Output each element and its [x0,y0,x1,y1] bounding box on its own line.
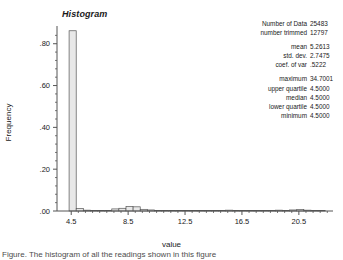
stat-value: 4.5000 [310,84,340,93]
stat-row: mean5.2613 [222,42,340,51]
stat-label: maximum [279,74,310,83]
stat-value: 25483 [310,19,340,28]
stat-value: 5.2613 [310,42,340,51]
y-axis-label: Frequency [4,91,13,155]
stat-row: number trimmed12797 [222,28,340,37]
x-axis-tick-label: 8.5 [113,217,143,226]
y-axis-tick-label: .80 [28,39,50,48]
stat-value: 12797 [310,28,340,37]
stat-row: coef. of var.5222 [222,60,340,69]
statistics-panel: Number of Data25483number trimmed12797me… [222,19,340,120]
y-axis-tick-label: .00 [28,207,50,216]
stat-row: maximum34.7001 [222,74,340,83]
histogram-figure: Histogram Frequency value .00.20.40.60.8… [0,0,343,260]
stat-label: number trimmed [260,28,310,37]
stat-label: upper quartile [268,84,310,93]
x-axis-tick-label: 12.5 [170,217,200,226]
chart-title: Histogram [62,9,107,19]
stat-label: minimum [281,111,310,120]
stat-row: std. dev.2.7475 [222,51,340,60]
stat-label: std. dev. [283,51,310,60]
y-axis-tick-label: .40 [28,123,50,132]
x-axis-label: value [0,240,343,249]
x-axis-tick-label: 16.5 [227,217,257,226]
y-axis-tick-label: .20 [28,165,50,174]
stat-row: upper quartile4.5000 [222,84,340,93]
stat-label: lower quartile [269,102,310,111]
stat-row: lower quartile4.5000 [222,102,340,111]
stat-value: 4.5000 [310,102,340,111]
histogram-bar [69,31,76,211]
stat-label: median [286,93,310,102]
figure-caption: Figure. The histogram of all the reading… [0,252,343,260]
y-axis-tick-label: .60 [28,81,50,90]
histogram-bar [126,207,133,211]
stat-row: minimum4.5000 [222,111,340,120]
stat-value: .5222 [310,60,340,69]
stat-row: median4.5000 [222,93,340,102]
stat-value: 2.7475 [310,51,340,60]
stat-label: Number of Data [262,19,310,28]
stat-label: coef. of var [275,60,310,69]
histogram-bar [133,207,140,211]
stat-value: 4.5000 [310,93,340,102]
stat-row: Number of Data25483 [222,19,340,28]
caption-text: Figure. The histogram of all the reading… [2,252,216,259]
stat-label: mean [291,42,310,51]
x-axis-tick-label: 20.5 [284,217,314,226]
stat-value: 34.7001 [310,74,340,83]
stat-value: 4.5000 [310,111,340,120]
x-axis-tick-label: 4.5 [56,217,86,226]
